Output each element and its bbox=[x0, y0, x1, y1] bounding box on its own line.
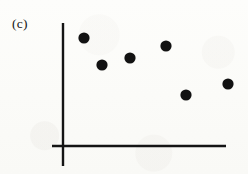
data-point-marker bbox=[124, 52, 135, 63]
scatter-figure-panel: (c) bbox=[0, 0, 248, 174]
data-point-marker bbox=[222, 78, 233, 89]
data-point-marker bbox=[96, 59, 107, 70]
scatter-plot-canvas bbox=[0, 0, 248, 174]
data-point-marker bbox=[180, 89, 191, 100]
axes-group bbox=[52, 23, 226, 166]
data-point-marker bbox=[160, 40, 171, 51]
data-point-marker bbox=[78, 32, 89, 43]
data-points-group bbox=[78, 32, 233, 100]
